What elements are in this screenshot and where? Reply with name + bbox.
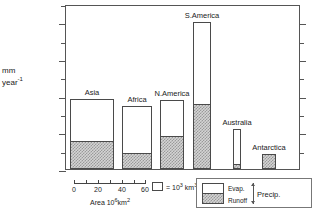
chart-legend: Evap. Runoff Precip. — [196, 178, 312, 208]
legend-label-precip: Precip. — [257, 190, 280, 199]
area-tick-30 — [110, 180, 111, 184]
y-tick-right-800 — [299, 98, 306, 99]
unit-key-swatch-icon — [152, 182, 163, 191]
precip-double-arrow-icon — [253, 183, 254, 204]
bar-label-s-america: S.America — [185, 11, 220, 20]
y-tick-0 — [59, 171, 66, 172]
bar-label-antarctica: Antarctica — [252, 143, 285, 152]
bar-n-america-runoff — [161, 136, 183, 168]
legend-label-evap: Evap. — [228, 185, 245, 192]
y-tick-minor-200 — [61, 153, 66, 154]
legend-swatch-icon — [202, 183, 224, 204]
bar-antarctica — [262, 154, 276, 169]
bar-label-africa: Africa — [127, 95, 146, 104]
y-tick-minor-1800 — [61, 6, 66, 7]
y-axis-title-line2: year — [2, 78, 18, 87]
bar-label-australia: Australia — [222, 118, 251, 127]
y-tick-right-1600 — [299, 24, 306, 25]
y-tick-right-1200 — [299, 61, 306, 62]
precip-arrow-head-up — [251, 183, 255, 186]
y-tick-minor-1000 — [61, 79, 66, 80]
chart-figure: mm year-1 1600 1200 800 400 0 — [0, 0, 316, 220]
bar-africa-runoff — [123, 153, 151, 168]
y-tick-1600 — [59, 24, 66, 25]
bar-africa — [122, 106, 152, 169]
bar-label-n-america: N.America — [154, 89, 189, 98]
area-tick-10 — [86, 180, 87, 184]
unit-key-equals: = 10 — [166, 184, 180, 191]
area-tick-20 — [98, 180, 99, 184]
y-tick-right-minor-1000 — [299, 79, 304, 80]
bar-label-asia: Asia — [85, 88, 100, 97]
precip-arrow-head-down — [251, 201, 255, 204]
area-caption-unit-exp: 2 — [127, 197, 130, 203]
area-scale-rule — [74, 183, 146, 184]
area-caption-unit: km — [118, 199, 127, 206]
bar-australia-runoff — [234, 164, 240, 168]
area-tick-60 — [145, 180, 146, 184]
area-tick-0 — [74, 180, 75, 184]
bar-asia-runoff — [71, 141, 113, 168]
area-caption-main: Area 10 — [90, 199, 115, 206]
bar-s-america-runoff — [194, 104, 210, 168]
area-label-20: 20 — [94, 186, 102, 193]
y-tick-400 — [59, 134, 66, 135]
unit-key-unit: km — [183, 184, 194, 191]
bar-australia — [233, 129, 241, 169]
area-label-60: 60 — [141, 186, 149, 193]
y-axis-title-line1: mm — [2, 66, 15, 75]
y-tick-minor-1400 — [61, 43, 66, 44]
y-tick-right-minor-600 — [299, 116, 304, 117]
y-tick-minor-600 — [61, 116, 66, 117]
y-tick-right-400 — [299, 134, 306, 135]
y-tick-right-minor-1400 — [299, 43, 304, 44]
area-tick-50 — [134, 180, 135, 184]
area-label-40: 40 — [118, 186, 126, 193]
area-tick-40 — [122, 180, 123, 184]
legend-label-runoff: Runoff — [228, 197, 247, 204]
y-tick-800 — [59, 98, 66, 99]
area-scale-caption: Area 106km2 — [90, 197, 130, 206]
bar-asia — [70, 99, 114, 169]
plot-area: 1600 1200 800 400 0 Asia Af — [65, 5, 300, 170]
bar-s-america — [193, 22, 211, 169]
area-scale: 0 20 40 60 Area 106km2 — [74, 183, 146, 184]
legend-swatch-runoff — [203, 193, 223, 203]
y-tick-1200 — [59, 61, 66, 62]
bar-n-america — [160, 100, 184, 169]
y-axis-title-exponent: -1 — [18, 76, 23, 82]
area-label-0: 0 — [72, 186, 76, 193]
y-axis-title: mm year-1 — [2, 66, 42, 87]
y-tick-right-minor-200 — [299, 153, 304, 154]
